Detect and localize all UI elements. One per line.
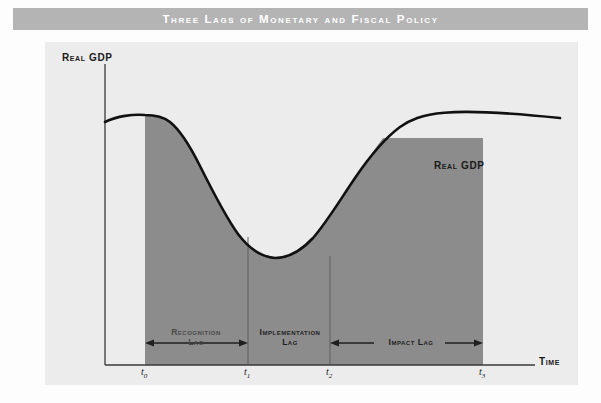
implementation-lag-label: Implementation Lag — [251, 327, 329, 347]
figure-container: Three Lags of Monetary and Fiscal Policy — [0, 0, 601, 403]
tick-sub-t1: 1 — [247, 372, 251, 380]
recognition-lag-label: Recognition Lag — [150, 327, 242, 347]
impact-lag-label: Impact Lag — [380, 337, 442, 347]
x-axis-label: Time — [539, 356, 560, 367]
page-title: Three Lags of Monetary and Fiscal Policy — [162, 13, 438, 25]
y-axis-label: Real GDP — [62, 52, 112, 63]
tick-sub-t2: 2 — [329, 372, 333, 380]
recognition-lag-line2: Lag — [188, 337, 204, 347]
recognition-lag-line1: Recognition — [171, 327, 221, 337]
tick-label-t3: t3 — [479, 366, 485, 380]
tick-label-t2: t2 — [326, 366, 332, 380]
tick-label-t1: t1 — [244, 366, 250, 380]
tick-label-t0: t0 — [141, 366, 147, 380]
tick-sub-t0: 0 — [144, 372, 148, 380]
real-gdp-curve-label: Real GDP — [434, 160, 484, 171]
implementation-lag-line2: Lag — [282, 337, 298, 347]
figure-title-band: Three Lags of Monetary and Fiscal Policy — [13, 8, 588, 30]
impact-lag-line1: Impact Lag — [389, 337, 434, 347]
implementation-lag-line1: Implementation — [260, 327, 321, 337]
tick-sub-t3: 3 — [482, 372, 486, 380]
